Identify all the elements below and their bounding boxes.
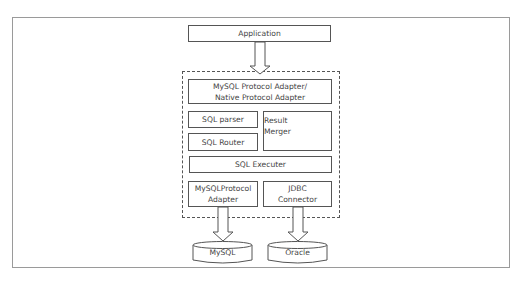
arrow-down-icon: [213, 207, 233, 241]
arrow-down-icon: [250, 42, 270, 74]
mysql-db-label: MySQL: [193, 248, 252, 257]
arrow-down-icon: [288, 207, 308, 241]
connectors: [0, 0, 522, 281]
oracle-db-label: Oracle: [268, 248, 327, 257]
